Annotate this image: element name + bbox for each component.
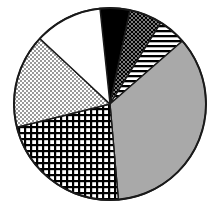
pie-chart-figure xyxy=(0,0,222,210)
pie-chart-svg xyxy=(0,0,222,210)
